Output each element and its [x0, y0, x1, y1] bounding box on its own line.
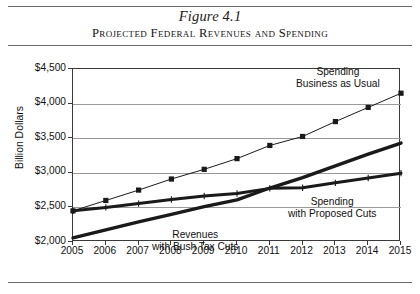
figure-container: Figure 4.1 Projected Federal Revenues an… — [0, 0, 420, 294]
y-axis-tick-label: $2,000 — [6, 235, 66, 246]
annotation-business-as-usual: Spending Business as Usual — [296, 66, 380, 91]
x-axis-tick-mark — [138, 241, 139, 245]
annotation-proposed-cuts: Spending with Proposed Cuts — [288, 196, 376, 221]
x-axis-tick-mark — [269, 241, 270, 245]
annotation-revenues: Revenues with Bush Tax Cuts — [152, 229, 238, 254]
y-axis-tick-label: $2,500 — [6, 200, 66, 211]
y-axis-tick-label: $4,500 — [6, 62, 66, 73]
annotation-rev-line2: with Bush Tax Cuts — [152, 241, 238, 253]
y-axis-tick-mark — [68, 172, 72, 173]
y-axis-tick-mark — [68, 68, 72, 69]
y-axis-title: Billion Dollars — [14, 83, 25, 193]
annotation-cuts-line1: Spending — [288, 196, 376, 208]
y-axis-tick-mark — [68, 137, 72, 138]
x-axis-tick-mark — [400, 241, 401, 245]
y-axis-tick-mark — [68, 103, 72, 104]
x-axis-tick-mark — [334, 241, 335, 245]
x-axis-tick-label: 2015 — [380, 245, 420, 256]
annotation-bau-line1: Spending — [296, 66, 380, 78]
annotation-cuts-line2: with Proposed Cuts — [288, 208, 376, 220]
x-axis-tick-mark — [72, 241, 73, 245]
x-axis-tick-mark — [302, 241, 303, 245]
y-axis-tick-mark — [68, 206, 72, 207]
x-axis-tick-mark — [367, 241, 368, 245]
footer-rule — [8, 282, 412, 283]
annotation-bau-line2: Business as Usual — [296, 78, 380, 90]
x-axis-tick-mark — [105, 241, 106, 245]
annotation-rev-line1: Revenues — [152, 229, 238, 241]
